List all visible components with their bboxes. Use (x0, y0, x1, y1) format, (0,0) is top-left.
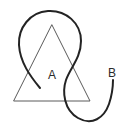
label-A: A (48, 68, 56, 82)
label-B: B (108, 66, 116, 80)
diagram-canvas: A B (0, 0, 127, 134)
diagram-svg: A B (0, 0, 127, 134)
